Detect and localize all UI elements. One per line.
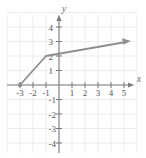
endpoint-dot-marker	[18, 83, 22, 87]
y-tick-label: -1	[49, 95, 57, 105]
x-tick-labels: -3 -2 -1 1 2 3 4 5	[16, 88, 127, 98]
x-axis-label: x	[136, 73, 142, 84]
y-axis-label: y	[61, 3, 67, 14]
x-axis-arrow-icon	[128, 82, 134, 87]
y-tick-label: 1	[49, 66, 54, 76]
coordinate-plane: -3 -2 -1 1 2 3 4 5 4 3 2 1 -1 -2 -3 -4 x…	[0, 0, 146, 158]
y-axis-arrow-icon	[56, 15, 61, 21]
y-tick-label: -2	[49, 110, 57, 120]
graph-figure: -3 -2 -1 1 2 3 4 5 4 3 2 1 -1 -2 -3 -4 x…	[0, 0, 146, 158]
x-tick-label: 2	[83, 88, 88, 98]
y-tick-label: 2	[49, 52, 54, 62]
curve-arrow-icon	[122, 38, 131, 44]
x-tick-label: -2	[29, 88, 37, 98]
x-tick-label: 5	[122, 88, 127, 98]
y-axis	[56, 15, 61, 153]
function-curve	[18, 38, 131, 87]
x-tick-label: 3	[96, 88, 101, 98]
x-axis	[7, 82, 134, 87]
y-tick-label: 3	[49, 37, 54, 47]
y-tick-label: 4	[49, 23, 54, 33]
x-tick-label: 1	[70, 88, 75, 98]
x-tick-label: 4	[109, 88, 114, 98]
y-tick-label: -4	[49, 139, 57, 149]
x-tick-label: -3	[16, 88, 24, 98]
y-tick-label: -3	[49, 124, 57, 134]
